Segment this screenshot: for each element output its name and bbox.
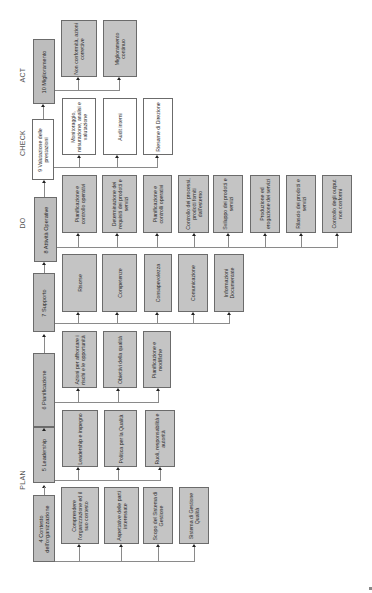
arrow-up-icon: [77, 155, 81, 158]
item-label: Consapevolezza: [155, 257, 161, 309]
item-label: Sviluppo dei prodotti e servizi: [222, 178, 234, 230]
connector: [337, 236, 338, 247]
valutazione-item: Audit interni: [103, 98, 137, 155]
connector: [55, 561, 195, 562]
connector: [158, 547, 159, 561]
arrow-up-icon: [115, 312, 119, 315]
leadership-item: Politica per la Qualità: [104, 410, 137, 467]
attivita-item: Rilascio dei prodotti e servizi: [286, 175, 316, 233]
miglioramento-item: Miglioramento continuo: [103, 20, 137, 77]
arrow-up-icon: [299, 233, 303, 236]
item-label: Determinazione dei requisiti dei prodott…: [111, 177, 129, 231]
connector: [78, 315, 79, 323]
arrow-up-icon: [76, 233, 80, 236]
arrow-up-icon: [42, 428, 46, 431]
attivita-item: Produzione ed erogazione dei servizi: [250, 175, 280, 233]
connector: [193, 315, 194, 323]
item-label: Comprendere l'organizzazione ed il suo c…: [71, 490, 89, 542]
arrow-up-icon: [156, 388, 160, 391]
arrow-up-icon: [191, 312, 195, 315]
arrow-up-icon: [117, 77, 121, 80]
item-label: Riesame di Direzione: [155, 101, 161, 153]
connector: [157, 158, 158, 167]
supporto-item: Competenze: [102, 254, 137, 312]
pianificazione-item: Obiettivi della qualità: [103, 331, 137, 388]
connector: [158, 391, 159, 402]
arrow-up-icon: [155, 233, 159, 236]
connector: [301, 236, 302, 247]
arrow-up-icon: [226, 233, 230, 236]
header-5-leadership: 5 Leadership: [33, 427, 55, 483]
header-label: 6 Pianificazione: [41, 355, 47, 425]
connector: [265, 236, 266, 247]
arrow-up-icon: [42, 334, 46, 337]
item-label: Miglioramento continuo: [114, 23, 126, 75]
arrow-up-icon: [119, 544, 123, 547]
connector: [43, 106, 44, 119]
miglioramento-item: Non conformità, azioni correttive: [61, 20, 97, 77]
item-label: Rilascio dei prodotti e servizi: [295, 178, 307, 230]
arrow-up-icon: [116, 388, 120, 391]
arrow-up-icon: [156, 544, 160, 547]
item-label: Scopo del Sistema di Gestione: [152, 490, 164, 542]
header-7-supporto: 7 Supporto: [33, 273, 55, 332]
item-label: Risorse: [77, 257, 83, 309]
item-label: Azioni per affrontare i rischi e le oppo…: [74, 334, 86, 386]
item-label: Obiettivi della qualità: [117, 334, 123, 386]
connector: [78, 80, 79, 90]
header-label: 4 Contesto dell'organizzazione: [38, 498, 51, 560]
connector: [157, 315, 158, 323]
arrow-up-icon: [42, 180, 46, 183]
item-label: Monitoraggio, misurazione, analisi e val…: [70, 101, 88, 153]
connector: [194, 547, 195, 561]
arrow-up-icon: [76, 467, 80, 470]
arrow-up-icon: [155, 155, 159, 158]
item-label: Pianificazione e modifiche: [151, 334, 163, 386]
connector: [119, 80, 120, 90]
connector: [78, 391, 79, 402]
header-label: 8 Attività Operative: [42, 201, 48, 259]
arrow-up-icon: [115, 233, 119, 236]
connector: [55, 90, 120, 91]
supporto-item: Informazioni Documentate: [214, 254, 244, 312]
connector: [54, 167, 158, 168]
connector: [78, 470, 79, 480]
header-label: 5 Leadership: [41, 429, 47, 481]
arrow-up-icon: [76, 312, 80, 315]
header-label: 10 Miglioramento: [41, 42, 47, 102]
contesto-item: Aspettative delle parti interessate: [104, 487, 139, 544]
attivita-item: Pianificazione e controlli operativi: [143, 175, 172, 233]
header-8-attivita-operative: 8 Attività Operative: [34, 197, 57, 262]
header-10-miglioramento: 10 Miglioramento: [33, 39, 55, 104]
connector: [228, 236, 229, 247]
valutazione-item: Riesame di Direzione: [143, 98, 173, 155]
arrow-up-icon: [41, 104, 45, 107]
item-label: Ruoli, responsabilità e autorità: [154, 413, 166, 465]
item-label: Aspettative delle parti interessate: [116, 490, 128, 542]
header-9-valutazione-prestazioni: 9 Valutazione delle prestazioni: [32, 119, 54, 180]
attivita-item: Determinazione dei requisiti dei prodott…: [102, 175, 137, 233]
connector: [57, 247, 338, 248]
valutazione-item: Monitoraggio, misurazione, analisi e val…: [62, 98, 96, 155]
connector: [194, 236, 195, 247]
header-6-pianificazione: 6 Pianificazione: [33, 353, 55, 427]
connector: [55, 480, 161, 481]
connector: [78, 236, 79, 247]
connector: [55, 402, 159, 403]
arrow-up-icon: [263, 233, 267, 236]
connector: [79, 547, 80, 561]
arrow-up-icon: [76, 388, 80, 391]
arrow-up-icon: [116, 467, 120, 470]
connector: [44, 264, 45, 273]
item-label: Audit interni: [117, 101, 123, 153]
arrow-up-icon: [76, 77, 80, 80]
item-label: Politica per la Qualità: [118, 413, 124, 465]
connector: [118, 391, 119, 402]
arrow-up-icon: [335, 233, 339, 236]
arrow-up-icon: [42, 262, 46, 265]
item-label: Non conformità, azioni correttive: [73, 23, 85, 75]
connector: [160, 470, 161, 480]
connector: [44, 337, 45, 353]
header-label: 7 Supporto: [41, 275, 47, 330]
phase-label-check: CHECK: [19, 130, 26, 156]
